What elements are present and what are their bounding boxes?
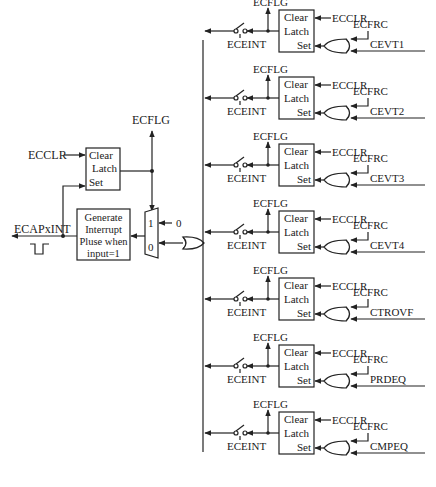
- ecflg-label: ECFLG: [253, 331, 288, 343]
- ecflg-label: ECFLG: [253, 63, 288, 75]
- switch-contact: [234, 29, 238, 33]
- event-row: ClearLatchSetECCLRECFRCPRDEQECFLGECEINT: [205, 331, 425, 388]
- latch-latch-label: Latch: [284, 293, 310, 305]
- switch-contact: [234, 364, 238, 368]
- latch-set-label: Set: [297, 240, 311, 252]
- or-gate-body: [324, 307, 350, 321]
- eceint-label: ECEINT: [227, 105, 266, 117]
- switch-lever: [236, 157, 244, 163]
- switch-contact: [234, 297, 238, 301]
- ecflg-label: ECFLG: [253, 0, 288, 8]
- left-latch-latch: Latch: [92, 162, 118, 174]
- generator-line4: input=1: [87, 248, 120, 259]
- switch-contact: [234, 163, 238, 167]
- left-ecflg-label: ECFLG: [132, 113, 170, 127]
- or-gate-body: [324, 106, 350, 120]
- event-label: CTROVF: [370, 306, 413, 318]
- latch-latch-label: Latch: [284, 25, 310, 37]
- event-rows: ClearLatchSetECCLRECFRCCEVT1ECFLGECEINTC…: [205, 0, 425, 455]
- latch-clear-label: Clear: [284, 212, 308, 224]
- event-label: CEVT3: [370, 172, 405, 184]
- or-gate-body: [324, 173, 350, 187]
- left-latch-set: Set: [89, 176, 103, 188]
- switch-contact: [243, 29, 247, 33]
- ecfrc-wire: [351, 165, 368, 173]
- switch-lever: [236, 224, 244, 230]
- switch-lever: [236, 358, 244, 364]
- ecfrc-label: ECFRC: [353, 286, 388, 298]
- latch-clear-label: Clear: [284, 78, 308, 90]
- event-label: CEVT2: [370, 105, 404, 117]
- latch-latch-label: Latch: [284, 92, 310, 104]
- event-label: CMPEQ: [370, 440, 408, 452]
- or-gate-body: [324, 374, 350, 388]
- event-row: ClearLatchSetECCLRECFRCCEVT1ECFLGECEINT: [205, 0, 425, 53]
- ecflg-label: ECFLG: [253, 130, 288, 142]
- central-or-gate: [159, 237, 204, 249]
- latch-clear-label: Clear: [284, 346, 308, 358]
- latch-set-label: Set: [297, 39, 311, 51]
- latch-clear-label: Clear: [284, 11, 308, 23]
- switch-contact: [243, 96, 247, 100]
- ecap-interrupt-diagram: ECCLR Clear Latch Set ECFLG 1 0 0 Genera…: [0, 0, 436, 487]
- event-row: ClearLatchSetECCLRECFRCCMPEQECFLGECEINT: [205, 398, 425, 455]
- or-gate-body: [324, 441, 350, 455]
- left-latch-clear: Clear: [89, 149, 113, 161]
- switch-contact: [243, 230, 247, 234]
- mux-const-label: 0: [176, 217, 182, 229]
- latch-latch-label: Latch: [284, 226, 310, 238]
- pulse-waveform-icon: [30, 244, 49, 254]
- mux-in1-label: 1: [148, 217, 154, 229]
- mux-in0-label: 0: [148, 241, 154, 253]
- latch-latch-label: Latch: [284, 159, 310, 171]
- left-ecclr-label: ECCLR: [28, 148, 67, 162]
- or-gate-body: [324, 39, 350, 53]
- event-row: ClearLatchSetECCLRECFRCCEVT2ECFLGECEINT: [205, 63, 425, 120]
- ecfrc-label: ECFRC: [353, 353, 388, 365]
- ecfrc-wire: [351, 98, 368, 106]
- event-label: CEVT4: [370, 239, 405, 251]
- ecfrc-label: ECFRC: [353, 152, 388, 164]
- ecfrc-wire: [351, 299, 368, 307]
- switch-contact: [234, 431, 238, 435]
- generator-line2: Interrupt: [85, 224, 122, 235]
- ecfrc-label: ECFRC: [353, 420, 388, 432]
- event-row: ClearLatchSetECCLRECFRCCEVT4ECFLGECEINT: [205, 197, 425, 254]
- generator-line1: Generate: [85, 212, 123, 223]
- switch-contact: [243, 364, 247, 368]
- eceint-label: ECEINT: [227, 38, 266, 50]
- eceint-label: ECEINT: [227, 239, 266, 251]
- ecflg-label: ECFLG: [253, 197, 288, 209]
- latch-clear-label: Clear: [284, 145, 308, 157]
- eceint-label: ECEINT: [227, 306, 266, 318]
- event-row: ClearLatchSetECCLRECFRCCTROVFECFLGECEINT: [205, 264, 425, 321]
- latch-set-label: Set: [297, 374, 311, 386]
- latch-set-label: Set: [297, 441, 311, 453]
- latch-set-label: Set: [297, 106, 311, 118]
- generator-line3: Pluse when: [79, 236, 128, 247]
- event-row: ClearLatchSetECCLRECFRCCEVT3ECFLGECEINT: [205, 130, 425, 187]
- ecfrc-label: ECFRC: [353, 219, 388, 231]
- ecflg-label: ECFLG: [253, 398, 288, 410]
- ecfrc-label: ECFRC: [353, 18, 388, 30]
- switch-contact: [243, 431, 247, 435]
- ecfrc-wire: [351, 433, 368, 441]
- switch-lever: [236, 291, 244, 297]
- eceint-label: ECEINT: [227, 172, 266, 184]
- switch-lever: [236, 425, 244, 431]
- eceint-label: ECEINT: [227, 440, 266, 452]
- left-section: ECCLR Clear Latch Set ECFLG 1 0 0 Genera…: [12, 113, 182, 260]
- latch-latch-label: Latch: [284, 360, 310, 372]
- event-label: CEVT1: [370, 38, 404, 50]
- switch-lever: [236, 90, 244, 96]
- latch-clear-label: Clear: [284, 279, 308, 291]
- ecflg-label: ECFLG: [253, 264, 288, 276]
- latch-set-label: Set: [297, 173, 311, 185]
- ecfrc-wire: [351, 366, 368, 374]
- event-label: PRDEQ: [370, 373, 406, 385]
- switch-lever: [236, 23, 244, 29]
- switch-contact: [234, 96, 238, 100]
- eceint-label: ECEINT: [227, 373, 266, 385]
- or-gate-body: [183, 237, 204, 249]
- latch-set-label: Set: [297, 307, 311, 319]
